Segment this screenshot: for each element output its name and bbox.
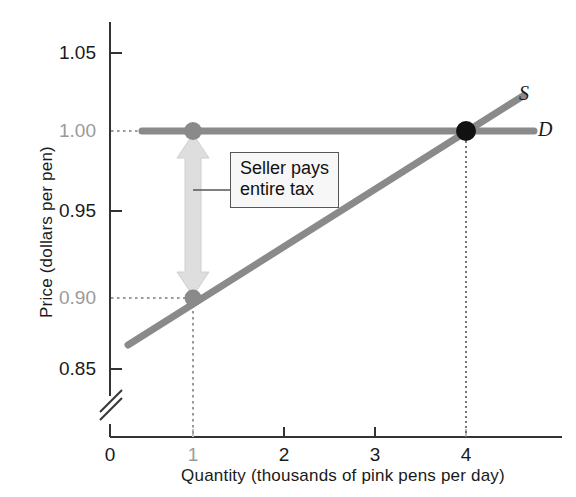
callout-seller-pays-entire-tax: Seller pays entire tax <box>230 152 339 208</box>
tax-gap-arrow <box>177 134 209 296</box>
supply-curve-label: S <box>519 82 529 105</box>
callout-line-2: entire tax <box>240 179 329 200</box>
y-tick-label-1-00: 1.00 <box>24 120 96 142</box>
y-tick-marks <box>110 53 122 369</box>
y-axis-title: Price (dollars per pen) <box>37 107 57 357</box>
x-tick-marks <box>193 427 466 437</box>
x-tick-label-3: 3 <box>355 444 395 466</box>
x-tick-label-4: 4 <box>446 444 486 466</box>
x-axis-title: Quantity (thousands of pink pens per day… <box>110 466 576 486</box>
supply-demand-chart: Price (dollars per pen) Quantity (thousa… <box>0 0 576 497</box>
y-tick-label-0-90: 0.90 <box>24 287 96 309</box>
chart-canvas <box>0 0 576 497</box>
x-tick-label-1: 1 <box>173 444 213 466</box>
x-tick-label-0: 0 <box>90 444 130 466</box>
y-tick-label-1-05: 1.05 <box>24 42 96 64</box>
y-tick-label-0-85: 0.85 <box>24 358 96 380</box>
point-equilibrium <box>456 121 476 141</box>
point-price-received <box>184 122 202 140</box>
point-seller-net-price <box>185 290 202 307</box>
callout-line-1: Seller pays <box>240 158 329 179</box>
x-tick-label-2: 2 <box>264 444 304 466</box>
demand-curve-label: D <box>538 118 552 141</box>
axis-lines <box>110 22 562 437</box>
y-tick-label-0-95: 0.95 <box>24 200 96 222</box>
